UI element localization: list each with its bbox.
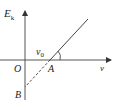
origin-label: O <box>14 63 21 74</box>
ek-line-dashed-extension <box>25 60 50 87</box>
y-axis-label: Ek <box>3 7 15 22</box>
ek-line-solid <box>50 19 88 60</box>
x-axis-label: ν <box>100 63 104 73</box>
threshold-frequency-label: ν0 <box>36 46 44 59</box>
point-a-label: A <box>47 63 55 74</box>
ek-vs-frequency-diagram: Ek ν O A B ν0 <box>0 0 120 108</box>
point-b-label: B <box>15 89 21 100</box>
angle-arc-icon <box>58 51 60 60</box>
